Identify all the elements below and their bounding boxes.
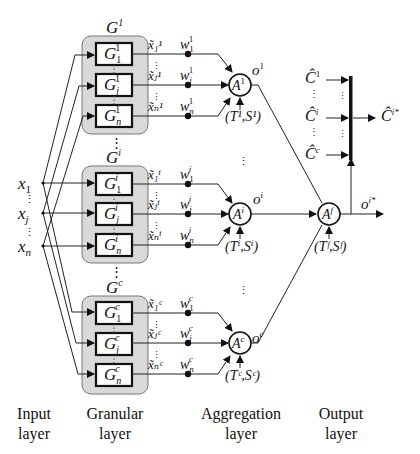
selected-class-label: Ĉi* (381, 108, 399, 124)
vdots: ⋮ (152, 62, 161, 71)
aggregator-label-i: Ai (233, 206, 244, 222)
aggregator-params-1: (T¹,S¹) (225, 110, 261, 124)
group-title-c: Gc (106, 278, 123, 296)
layer-label-output: Outputlayer (291, 404, 391, 444)
granule-output-label: x̃₁¹ (148, 38, 162, 51)
vdots: ⋮ (152, 321, 161, 330)
granule-label: Gni (104, 236, 124, 256)
group-title-i: Gi (106, 148, 121, 166)
final-output-label: oi* (361, 196, 376, 212)
aggregator-output-c: oc (252, 330, 264, 346)
class-label-1: Ĉ1 (305, 70, 320, 86)
vdots: ⋮ (152, 93, 161, 102)
vdots: ⋮ (238, 156, 249, 167)
weight-label: w1i (180, 168, 196, 184)
granule-output-label: x̃₁ⁱ (148, 168, 161, 181)
granule-label: Gjc (104, 335, 124, 355)
class-label-c: Ĉc (305, 146, 320, 162)
granule-label: Gnc (104, 366, 126, 386)
aggregator-output-1: o1 (252, 62, 264, 78)
vdots-groups-2: ⋮ (110, 265, 123, 278)
granule-label: Gn1 (104, 107, 126, 127)
final-aggregator-params: (Tᶠ,Sᶠ) (314, 240, 346, 254)
weight-label: w11 (180, 38, 198, 54)
vdots: ⋮ (338, 130, 347, 139)
output-selector-bar (349, 76, 353, 160)
vdots: ⋮ (309, 127, 319, 137)
diagram-canvas (0, 0, 420, 454)
granule-label: Gji (104, 205, 122, 225)
vdots: ⋮ (152, 192, 161, 201)
aggregator-label-1: A1 (232, 77, 245, 93)
class-label-i: Ĉi (305, 108, 318, 124)
weight-label: wni (180, 229, 196, 245)
weight-label: w1c (180, 297, 198, 313)
aggregator-params-c: (Tᶜ,Sᶜ) (225, 369, 260, 383)
vdots: ⋮ (152, 222, 161, 231)
weight-label: wn1 (180, 100, 198, 116)
input-label-xn: xn (18, 238, 31, 258)
final-aggregator-label: Af (322, 206, 333, 222)
weight-label: wnc (180, 358, 198, 374)
group-title-1: G1 (106, 18, 123, 36)
granule-output-label: x̃₁ᶜ (148, 297, 162, 310)
layer-label-aggregation: Aggregationlayer (191, 404, 291, 444)
vdots-groups-1: ⋮ (110, 136, 123, 149)
aggregator-params-i: (Tⁱ,Sⁱ) (225, 240, 258, 254)
input-label-xj: xj (18, 205, 29, 225)
granule-label: G11 (104, 45, 126, 65)
vdots: ⋮ (338, 92, 347, 101)
aggregator-output-i: oi (253, 191, 263, 207)
layer-label-granular: Granularlayer (65, 404, 165, 444)
granule-label: G1c (104, 304, 126, 324)
vdots: ⋮ (238, 285, 249, 296)
granule-label: Gj1 (104, 76, 124, 96)
vdots: ⋮ (152, 351, 161, 360)
aggregator-label-c: Ac (232, 335, 245, 351)
vdots: ⋮ (309, 89, 319, 99)
weight-label: wjc (180, 327, 196, 343)
granule-label: G1i (104, 175, 124, 195)
weight-label: wj1 (180, 69, 196, 85)
weight-label: wji (180, 198, 194, 214)
